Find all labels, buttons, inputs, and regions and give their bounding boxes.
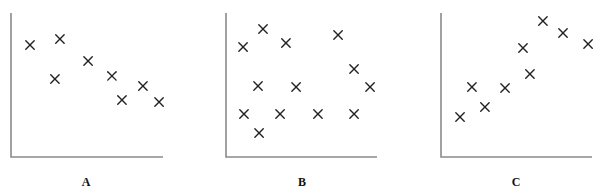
axes-a — [11, 13, 163, 157]
data-point-a-8 — [155, 98, 163, 106]
scatter-panel-c: C — [441, 13, 592, 189]
data-point-b-5 — [350, 65, 358, 73]
data-point-b-1 — [239, 43, 247, 51]
data-point-a-6 — [118, 96, 126, 104]
data-point-c-6 — [526, 70, 534, 78]
data-point-b-13 — [255, 129, 263, 137]
data-point-b-11 — [314, 110, 322, 118]
data-point-b-4 — [334, 31, 342, 39]
panel-label-a: A — [82, 175, 91, 189]
scatter-panel-a: A — [11, 13, 163, 189]
scatter-panel-b: B — [226, 13, 377, 189]
data-point-c-5 — [519, 44, 527, 52]
data-point-a-4 — [84, 57, 92, 65]
data-point-b-2 — [259, 25, 267, 33]
data-point-c-4 — [501, 84, 509, 92]
data-point-b-9 — [240, 110, 248, 118]
points-a — [26, 35, 163, 106]
data-point-c-2 — [468, 83, 476, 91]
points-c — [456, 17, 592, 121]
scatter-plots-figure: A B C — [0, 0, 601, 191]
data-point-b-10 — [276, 110, 284, 118]
panel-label-b: B — [298, 175, 306, 189]
panel-label-c: C — [512, 175, 521, 189]
data-point-c-3 — [481, 103, 489, 111]
data-point-c-8 — [559, 29, 567, 37]
data-point-a-2 — [56, 35, 64, 43]
axes-b — [226, 13, 377, 157]
data-point-a-5 — [108, 72, 116, 80]
data-point-b-7 — [292, 83, 300, 91]
data-point-b-6 — [254, 82, 262, 90]
data-point-a-3 — [51, 75, 59, 83]
data-point-b-3 — [282, 39, 290, 47]
data-point-a-1 — [26, 41, 34, 49]
data-point-c-7 — [539, 17, 547, 25]
data-point-c-1 — [456, 113, 464, 121]
data-point-b-8 — [366, 83, 374, 91]
data-point-c-9 — [584, 40, 592, 48]
data-point-a-7 — [139, 82, 147, 90]
points-b — [239, 25, 374, 137]
axes-c — [441, 13, 592, 157]
data-point-b-12 — [350, 110, 358, 118]
